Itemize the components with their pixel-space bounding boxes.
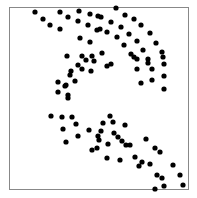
data-point xyxy=(98,128,103,133)
data-point xyxy=(149,77,154,82)
data-point xyxy=(87,39,92,44)
data-point xyxy=(140,47,145,52)
data-point xyxy=(57,26,62,31)
data-point xyxy=(160,54,165,59)
data-point xyxy=(161,183,166,188)
data-point xyxy=(96,137,101,142)
data-point xyxy=(105,141,110,146)
data-point xyxy=(32,9,37,14)
data-point xyxy=(161,86,166,91)
data-point xyxy=(104,155,109,160)
data-point xyxy=(98,14,103,19)
data-point xyxy=(107,113,112,118)
data-point xyxy=(121,42,126,47)
data-point xyxy=(99,50,104,55)
data-point xyxy=(79,66,84,71)
data-point xyxy=(55,89,60,94)
data-point xyxy=(138,22,143,27)
data-point xyxy=(161,61,166,66)
data-point xyxy=(131,16,136,21)
data-point xyxy=(147,30,152,35)
data-point xyxy=(79,53,84,58)
data-point xyxy=(65,14,70,19)
data-point xyxy=(127,142,132,147)
data-point xyxy=(131,54,136,59)
data-point xyxy=(119,138,124,143)
data-point xyxy=(122,12,127,17)
data-point xyxy=(75,133,80,138)
data-point xyxy=(149,66,154,71)
data-point xyxy=(57,9,62,14)
data-point xyxy=(91,58,96,63)
data-point xyxy=(136,163,141,168)
data-point xyxy=(159,49,164,54)
data-points xyxy=(32,5,185,191)
data-point xyxy=(114,34,119,39)
scatter-plot xyxy=(0,0,197,198)
data-point xyxy=(161,73,166,78)
data-point xyxy=(145,60,150,65)
data-point xyxy=(64,53,69,58)
data-point xyxy=(67,72,72,77)
data-point xyxy=(89,53,94,58)
data-point xyxy=(108,61,113,66)
data-point xyxy=(97,26,102,31)
data-point xyxy=(75,18,80,23)
plot-frame xyxy=(10,8,189,190)
data-point xyxy=(157,149,162,154)
data-point xyxy=(73,121,78,126)
data-point xyxy=(153,40,158,45)
data-point xyxy=(59,114,64,119)
data-point xyxy=(47,22,52,27)
data-point xyxy=(143,136,148,141)
data-point xyxy=(108,19,113,24)
data-point xyxy=(138,80,143,85)
data-point xyxy=(87,11,92,16)
data-point xyxy=(152,145,157,150)
data-point xyxy=(154,172,159,177)
data-point xyxy=(94,145,99,150)
data-point xyxy=(65,92,70,97)
data-point xyxy=(85,22,90,27)
data-point xyxy=(147,161,152,166)
data-point xyxy=(159,175,164,180)
data-point xyxy=(77,35,82,40)
data-point xyxy=(113,5,118,10)
data-point xyxy=(89,147,94,152)
data-point xyxy=(40,16,45,21)
data-point xyxy=(55,79,60,84)
data-point xyxy=(48,113,53,118)
data-point xyxy=(86,127,91,132)
data-point xyxy=(60,126,65,131)
data-point xyxy=(110,119,115,124)
data-point xyxy=(177,172,182,177)
data-point xyxy=(88,68,93,73)
data-point xyxy=(62,83,67,88)
data-point xyxy=(83,57,88,62)
data-point xyxy=(170,162,175,167)
data-point xyxy=(76,8,81,13)
data-point xyxy=(122,122,127,127)
data-point xyxy=(63,139,68,144)
data-point xyxy=(75,62,80,67)
data-point xyxy=(115,134,120,139)
data-point xyxy=(152,186,157,191)
data-point xyxy=(104,29,109,34)
data-point xyxy=(111,130,116,135)
data-point xyxy=(134,66,139,71)
data-point xyxy=(180,182,185,187)
data-point xyxy=(72,78,77,83)
data-point xyxy=(118,24,123,29)
data-point xyxy=(69,114,74,119)
data-point xyxy=(134,38,139,43)
data-point xyxy=(100,120,105,125)
data-point xyxy=(132,154,137,159)
data-point xyxy=(117,157,122,162)
data-point xyxy=(126,31,131,36)
